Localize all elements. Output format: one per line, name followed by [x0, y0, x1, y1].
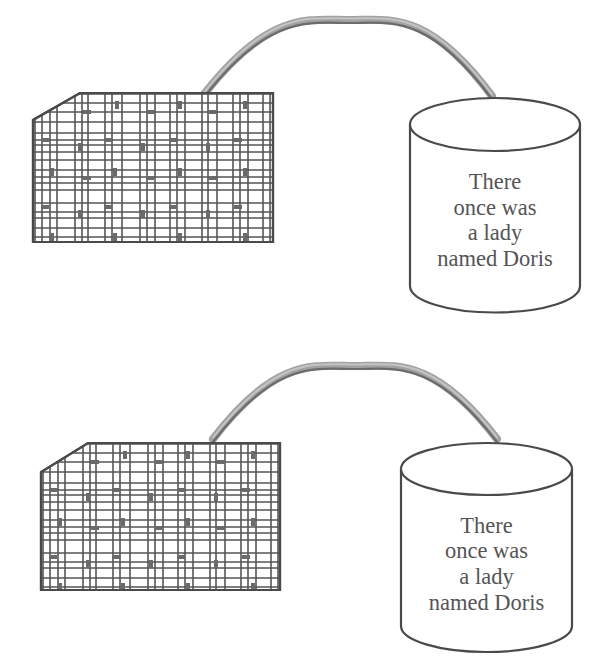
diagram-canvas: There once was a lady named Doris There …	[0, 0, 607, 662]
cable-tube	[213, 366, 497, 439]
cable-bottom	[213, 364, 497, 442]
punch-hole-horizontal	[104, 205, 112, 209]
punch-hole-vertical	[243, 168, 247, 176]
label-line-4: named Doris	[437, 246, 553, 271]
punch-hole-horizontal	[234, 138, 242, 142]
punch-hole-horizontal	[83, 176, 91, 180]
punch-hole-vertical	[50, 233, 54, 241]
cable-edge	[213, 369, 497, 442]
punch-hole-horizontal	[177, 488, 185, 492]
punched-card-top	[33, 93, 273, 242]
label-line-1: There	[469, 169, 521, 194]
punch-hole-horizontal	[154, 526, 162, 530]
punch-hole-horizontal	[146, 176, 154, 180]
diagram-unit-top: There once was a lady named Doris	[33, 18, 580, 312]
punch-hole-horizontal	[41, 138, 49, 142]
card-outline	[33, 93, 273, 242]
punch-hole-horizontal	[49, 555, 57, 559]
cable-highlight	[213, 364, 497, 437]
punch-hole-vertical	[141, 210, 145, 218]
punch-hole-horizontal	[209, 176, 217, 180]
punch-hole-horizontal	[169, 138, 177, 142]
punch-hole-vertical	[243, 233, 247, 241]
label-line-4: named Doris	[429, 590, 545, 615]
punch-hole-vertical	[186, 451, 190, 459]
punch-hole-horizontal	[169, 205, 177, 209]
punch-hole-horizontal	[242, 488, 250, 492]
punch-hole-horizontal	[217, 526, 225, 530]
punch-hole-vertical	[86, 560, 90, 568]
cable-top	[205, 18, 492, 99]
punch-hole-horizontal	[49, 488, 57, 492]
punch-hole-vertical	[214, 493, 218, 501]
punch-hole-vertical	[78, 210, 82, 218]
cylinder-top-ellipse	[401, 443, 572, 495]
punch-hole-vertical	[121, 518, 125, 526]
label-line-3: a lady	[459, 564, 514, 589]
punch-hole-vertical	[115, 101, 119, 109]
punch-hole-vertical	[113, 233, 117, 241]
punch-hole-vertical	[186, 518, 190, 526]
label-line-3: a lady	[468, 220, 523, 245]
label-line-1: There	[460, 513, 512, 538]
punch-hole-vertical	[206, 143, 210, 151]
punch-hole-vertical	[113, 168, 117, 176]
cable-tube	[205, 20, 492, 96]
punch-hole-horizontal	[112, 555, 120, 559]
punch-hole-horizontal	[234, 205, 242, 209]
punch-hole-horizontal	[91, 526, 99, 530]
punch-hole-vertical	[86, 493, 90, 501]
punch-hole-horizontal	[104, 138, 112, 142]
punch-hole-vertical	[251, 518, 255, 526]
punch-hole-vertical	[206, 210, 210, 218]
punch-hole-vertical	[251, 451, 255, 459]
punch-hole-horizontal	[209, 110, 217, 114]
cylinder-top-ellipse	[410, 98, 580, 151]
punch-hole-vertical	[141, 143, 145, 151]
punch-hole-vertical	[178, 233, 182, 241]
punch-hole-horizontal	[41, 205, 49, 209]
punch-hole-horizontal	[146, 110, 154, 114]
cable-highlight	[205, 18, 492, 94]
punch-hole-vertical	[243, 101, 247, 109]
punch-hole-vertical	[78, 143, 82, 151]
punch-hole-vertical	[214, 560, 218, 568]
label-line-2: once was	[445, 538, 528, 563]
punch-hole-horizontal	[154, 460, 162, 464]
punch-hole-horizontal	[112, 488, 120, 492]
punch-hole-vertical	[50, 168, 54, 176]
diagram-unit-bottom: There once was a lady named Doris	[41, 364, 572, 652]
punch-hole-vertical	[58, 518, 62, 526]
punch-hole-horizontal	[242, 555, 250, 559]
punch-hole-vertical	[149, 493, 153, 501]
punch-hole-vertical	[149, 560, 153, 568]
punch-hole-horizontal	[177, 555, 185, 559]
label-line-2: once was	[453, 195, 536, 220]
punch-hole-horizontal	[217, 460, 225, 464]
punch-hole-horizontal	[91, 460, 99, 464]
punch-hole-vertical	[178, 168, 182, 176]
punched-card-bottom	[41, 443, 280, 591]
punch-hole-horizontal	[83, 110, 91, 114]
punch-hole-vertical	[178, 101, 182, 109]
cable-edge	[205, 23, 492, 99]
punch-hole-vertical	[123, 451, 127, 459]
